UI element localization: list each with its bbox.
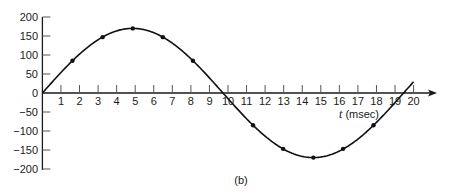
x-tick-label: 7: [169, 95, 175, 107]
sine-wave-figure: 200150100500−50−100−150−200 123456789101…: [0, 0, 450, 193]
y-tick-label: 0: [32, 87, 38, 99]
y-tick-label: 150: [20, 30, 38, 42]
data-point-marker: [311, 155, 315, 159]
data-point-marker: [161, 35, 165, 39]
x-tick-label: 13: [278, 95, 290, 107]
x-tick-label: 15: [315, 95, 327, 107]
x-axis-title: t (msec): [339, 107, 379, 121]
data-point-marker: [70, 59, 74, 63]
x-tick-label: 6: [151, 95, 157, 107]
y-tick-label: 200: [20, 11, 38, 23]
x-tick-label: 20: [407, 95, 419, 107]
x-tick-label: 1: [58, 95, 64, 107]
x-axis-unit: (msec): [345, 108, 379, 120]
x-axis: 1234567891011121314151617181920: [42, 85, 437, 107]
x-tick-label: 5: [132, 95, 138, 107]
x-tick-label: 18: [370, 95, 382, 107]
x-tick-label: 3: [95, 95, 101, 107]
data-point-marker: [191, 59, 195, 63]
y-tick-label: −50: [19, 106, 38, 118]
figure-caption: (b): [234, 174, 247, 186]
data-point-marker: [131, 26, 135, 30]
x-tick-label: 11: [241, 95, 252, 107]
x-tick-label: 8: [188, 95, 194, 107]
y-tick-label: −100: [13, 125, 38, 137]
data-point-marker: [341, 147, 345, 151]
x-tick-label: 9: [206, 95, 212, 107]
x-tick-label: 16: [333, 95, 345, 107]
data-point-marker: [100, 35, 104, 39]
data-point-marker: [371, 123, 375, 127]
y-tick-label: 50: [26, 68, 38, 80]
x-tick-label: 17: [352, 95, 364, 107]
y-tick-label: 100: [20, 49, 38, 61]
x-tick-label: 2: [76, 95, 82, 107]
x-tick-label: 10: [222, 95, 234, 107]
x-tick-label: 14: [296, 95, 308, 107]
x-tick-label: 12: [259, 95, 271, 107]
x-tick-label: 4: [114, 95, 120, 107]
y-tick-label: −150: [13, 144, 38, 156]
data-point-marker: [251, 123, 255, 127]
sine-wave-plot: 200150100500−50−100−150−200 123456789101…: [0, 0, 450, 193]
y-tick-label: −200: [13, 163, 38, 175]
data-point-marker: [281, 147, 285, 151]
x-axis-variable: t: [339, 107, 343, 121]
